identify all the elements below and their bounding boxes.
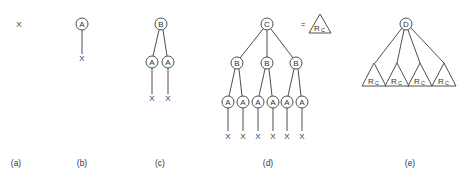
node-b-label: B: [234, 59, 239, 68]
node-a-label: A: [79, 20, 85, 29]
subtree-label: R: [314, 24, 320, 33]
subtree-subscript: C: [375, 80, 379, 86]
subtree-subscript: C: [321, 27, 325, 33]
subtree-subscript: C: [421, 80, 425, 86]
subtree-triangle-icon: [385, 63, 409, 86]
leaf-x: X: [79, 54, 85, 63]
leaf-x: X: [149, 94, 155, 103]
subtree-triangle-icon: [432, 63, 456, 86]
panel-e: D R C R C R C R C (e): [362, 18, 456, 168]
leaf-x: X: [16, 20, 22, 29]
caption-e: (e): [405, 158, 416, 168]
panel-d: C B B B A A A A A A X X X X X X = R C (d…: [222, 14, 331, 168]
node-b-label: B: [158, 20, 163, 29]
panel-b: A X (b): [76, 18, 88, 168]
node-a-label: A: [270, 98, 276, 107]
node-a-label: A: [240, 98, 246, 107]
node-a-label: A: [225, 98, 231, 107]
panel-c: B A A X X (c): [146, 18, 174, 168]
subtree-triangle-icon: [408, 63, 432, 86]
caption-c: (c): [155, 158, 165, 168]
subtree-label: R: [438, 77, 444, 86]
node-d-label: D: [403, 20, 409, 29]
node-a-label: A: [255, 98, 261, 107]
leaf-x: X: [255, 132, 261, 141]
leaf-x: X: [284, 132, 290, 141]
leaf-x: X: [165, 94, 171, 103]
tree-diagram: X (a) A X (b) B A A X X (c): [0, 0, 462, 182]
leaf-x: X: [240, 132, 246, 141]
subtree-triangle-icon: [362, 63, 386, 86]
subtree-label: R: [368, 77, 374, 86]
node-a-label: A: [284, 98, 290, 107]
subtree-subscript: C: [445, 80, 449, 86]
subtree-label: R: [391, 77, 397, 86]
node-a-label: A: [149, 58, 155, 67]
equals-sign: =: [301, 20, 306, 29]
caption-d: (d): [263, 158, 274, 168]
panel-a: X (a): [11, 20, 23, 168]
subtree-triangle-icon: [309, 14, 331, 33]
leaf-x: X: [225, 132, 231, 141]
leaf-x: X: [270, 132, 276, 141]
node-a-label: A: [299, 98, 305, 107]
node-a-label: A: [165, 58, 171, 67]
node-b-label: B: [293, 59, 298, 68]
node-c-label: C: [264, 20, 270, 29]
subtree-label: R: [414, 77, 420, 86]
node-b-label: B: [264, 59, 269, 68]
leaf-x: X: [299, 132, 305, 141]
subtree-subscript: C: [398, 80, 402, 86]
caption-b: (b): [77, 158, 88, 168]
caption-a: (a): [11, 158, 22, 168]
